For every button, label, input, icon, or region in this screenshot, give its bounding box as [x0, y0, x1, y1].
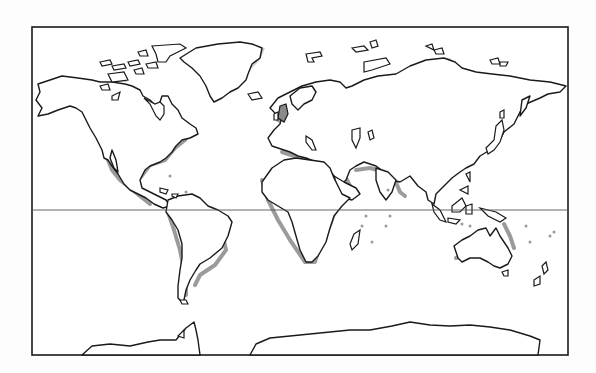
- tierra-del-fuego: [180, 300, 188, 304]
- world-map: [0, 0, 596, 373]
